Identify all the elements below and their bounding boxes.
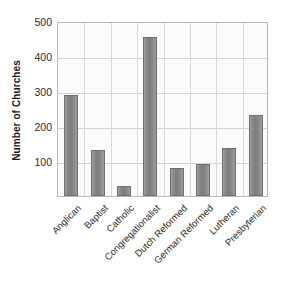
y-axis-title: Number of Churches xyxy=(8,40,24,180)
bar xyxy=(64,95,78,196)
y-axis-tick-label: 300 xyxy=(34,87,52,98)
bar-chart-figure: Number of Churches 100200300400500 Angli… xyxy=(0,0,291,290)
y-axis-title-text: Number of Churches xyxy=(11,60,22,161)
y-axis-tick-label: 100 xyxy=(34,157,52,168)
y-axis-tick-label: 200 xyxy=(34,122,52,133)
x-axis-tick-labels: AnglicanBaptistCatholicCongregationalist… xyxy=(0,197,291,290)
y-axis-tick-label: 400 xyxy=(34,52,52,63)
plot-area xyxy=(57,22,268,197)
bar xyxy=(196,164,210,196)
y-axis-tick-labels: 100200300400500 xyxy=(24,16,55,202)
bar xyxy=(170,168,184,196)
bar xyxy=(117,186,131,196)
bar xyxy=(143,37,157,196)
bars-layer xyxy=(58,23,267,196)
y-axis-tick-label: 500 xyxy=(34,17,52,28)
bar xyxy=(222,148,236,196)
bar xyxy=(91,150,105,196)
bar xyxy=(249,115,263,196)
